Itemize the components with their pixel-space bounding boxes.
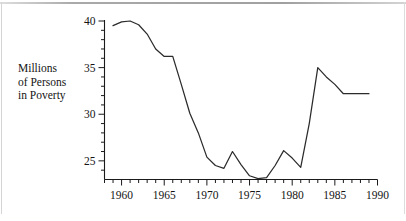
x-axis-tick-label: 1965 <box>153 189 176 201</box>
data-series <box>113 21 369 179</box>
x-axis-tick-label: 1975 <box>238 189 261 201</box>
x-axis-tick-label: 1960 <box>110 189 133 201</box>
x-axis-tick-label: 1970 <box>195 189 218 201</box>
y-axis: 25303540 <box>84 15 105 179</box>
poverty-line-series <box>113 21 369 179</box>
x-axis: 1960196519701975198019851990 <box>105 180 390 201</box>
y-axis-tick-label: 30 <box>84 108 96 120</box>
y-axis-tick-label: 35 <box>84 62 96 74</box>
figure-page: Millions of Persons in Poverty 25303540 … <box>0 0 406 221</box>
y-axis-tick-label: 40 <box>84 15 96 27</box>
chart-canvas: 25303540 1960196519701975198019851990 <box>0 0 406 221</box>
x-axis-tick-label: 1990 <box>366 189 389 201</box>
x-axis-tick-label: 1985 <box>323 189 346 201</box>
x-axis-tick-label: 1980 <box>281 189 304 201</box>
y-axis-tick-label: 25 <box>84 155 96 167</box>
line-chart: 25303540 1960196519701975198019851990 <box>0 0 406 221</box>
